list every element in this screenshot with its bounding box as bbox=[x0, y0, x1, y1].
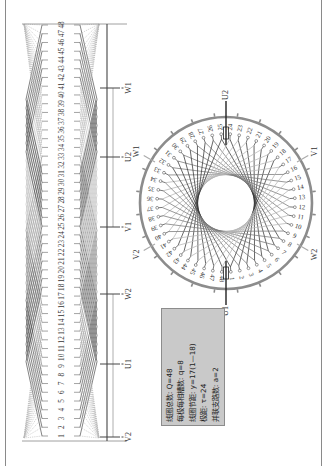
circle-slot-number: 37 bbox=[146, 206, 154, 213]
circle-slot-number: 6 bbox=[273, 256, 281, 264]
slot-terminal-dot bbox=[159, 180, 162, 183]
rotor-hole bbox=[208, 185, 244, 221]
slot-terminal-dot bbox=[173, 156, 176, 159]
circle-slot-number: 13 bbox=[298, 193, 306, 200]
slot-terminal-dot bbox=[194, 264, 197, 267]
circle-slot-number: 2 bbox=[238, 275, 246, 280]
circle-slot-number: 28 bbox=[186, 130, 196, 140]
ring-tick bbox=[259, 119, 260, 122]
circle-slot-number: 29 bbox=[178, 135, 188, 145]
slot-terminal-dot bbox=[287, 232, 290, 235]
ring-tick bbox=[306, 236, 309, 237]
slot-terminal-dot bbox=[194, 140, 197, 143]
circle-slot-number: 45 bbox=[189, 267, 198, 277]
slot-terminal-dot bbox=[156, 206, 159, 209]
slot-terminal-dot bbox=[179, 150, 182, 153]
circle-slot-number: 1 bbox=[229, 277, 236, 281]
circle-slot-number: 38 bbox=[147, 215, 156, 223]
slot-terminal-dot bbox=[167, 240, 170, 243]
ring-tick bbox=[154, 256, 157, 258]
circle-slot-number: 17 bbox=[284, 155, 294, 165]
parallel-branches-text: 并联支路数: a=2 bbox=[210, 312, 221, 422]
circle-slot-number: 43 bbox=[172, 256, 182, 266]
ring-tick bbox=[171, 272, 173, 275]
slot-terminal-dot bbox=[255, 263, 258, 266]
slot-terminal-dot bbox=[282, 240, 285, 243]
slot-terminal-dot bbox=[220, 133, 223, 136]
circle-slot-number: 27 bbox=[196, 127, 205, 136]
circle-slot-number: 10 bbox=[294, 222, 303, 231]
circle-slot-number: 3 bbox=[248, 272, 256, 278]
winding-parameters-box: 线圈总数: Q=48 每极每相槽数: q=8 线圈节距: y=17(1—18) … bbox=[161, 308, 225, 426]
slot-terminal-dot bbox=[163, 171, 166, 174]
slot-terminal-dot bbox=[238, 269, 241, 272]
slot-terminal-dot bbox=[286, 171, 289, 174]
circle-slot-number: 30 bbox=[170, 141, 180, 151]
circle-terminal-label-u2: U2 bbox=[221, 90, 230, 100]
ring-tick bbox=[154, 148, 157, 150]
ring-tick bbox=[295, 148, 298, 150]
slot-terminal-dot bbox=[179, 254, 182, 257]
slot-terminal-dot bbox=[203, 267, 206, 270]
circle-slot-number: 12 bbox=[298, 203, 305, 210]
circle-slot-number: 15 bbox=[293, 173, 302, 182]
slot-terminal-dot bbox=[263, 144, 266, 147]
pole-pitch-text: 极距: τ=24 bbox=[198, 312, 209, 422]
coil-pitch-text: 线圈节距: y=17(1—18) bbox=[187, 312, 198, 422]
slot-terminal-dot bbox=[270, 150, 273, 153]
slot-terminal-dot bbox=[290, 223, 293, 226]
ring-tick bbox=[142, 168, 145, 169]
circle-slot-number: 35 bbox=[147, 185, 155, 193]
ring-tick bbox=[295, 256, 298, 258]
circle-slot-number: 25 bbox=[216, 123, 223, 131]
ring-tick bbox=[191, 283, 192, 286]
slot-terminal-dot bbox=[255, 140, 258, 143]
slot-terminal-dot bbox=[246, 136, 249, 139]
circle-slot-number: 44 bbox=[180, 262, 190, 272]
circle-slot-number: 23 bbox=[235, 124, 243, 132]
circle-slot-number: 26 bbox=[206, 124, 214, 133]
slot-terminal-dot bbox=[270, 253, 273, 256]
ring-tick bbox=[306, 168, 309, 169]
slot-terminal-dot bbox=[292, 215, 295, 218]
slot-terminal-dot bbox=[290, 179, 293, 182]
circle-terminal-label-w1: W1 bbox=[132, 146, 141, 158]
slot-terminal-dot bbox=[167, 164, 170, 167]
ring-tick bbox=[279, 131, 281, 134]
circle-slot-number: 47 bbox=[208, 274, 216, 282]
circle-slot-number: 39 bbox=[150, 224, 159, 233]
slot-terminal-dot bbox=[159, 224, 162, 227]
circle-slot-number: 19 bbox=[270, 140, 280, 150]
circle-slot-number: 34 bbox=[149, 175, 158, 184]
circle-slot-number: 5 bbox=[265, 262, 273, 269]
ring-tick bbox=[171, 131, 173, 134]
circle-slot-number: 18 bbox=[277, 147, 287, 157]
slot-terminal-dot bbox=[292, 188, 295, 191]
slot-terminal-dot bbox=[220, 270, 223, 273]
slot-terminal-dot bbox=[157, 215, 160, 218]
circle-slot-number: 16 bbox=[289, 163, 299, 173]
circle-slot-number: 22 bbox=[245, 126, 254, 134]
circle-slot-number: 11 bbox=[297, 212, 305, 220]
slot-terminal-dot bbox=[187, 259, 190, 262]
circle-slot-number: 36 bbox=[146, 196, 154, 203]
slot-terminal-dot bbox=[229, 270, 232, 273]
circle-slot-number: 42 bbox=[165, 249, 175, 259]
circle-slot-number: 14 bbox=[296, 183, 305, 191]
ring-tick bbox=[259, 283, 260, 286]
slot-terminal-dot bbox=[202, 136, 205, 139]
ring-tick bbox=[191, 119, 192, 122]
circle-slot-number: 32 bbox=[157, 157, 166, 166]
circle-slot-number: 4 bbox=[257, 268, 265, 275]
slot-terminal-dot bbox=[157, 188, 160, 191]
slot-terminal-dot bbox=[173, 247, 176, 250]
slot-terminal-dot bbox=[276, 156, 279, 159]
slot-terminal-dot bbox=[238, 134, 241, 137]
slot-terminal-dot bbox=[211, 134, 214, 137]
slot-terminal-dot bbox=[247, 267, 250, 270]
slot-terminal-dot bbox=[163, 232, 166, 235]
circle-slot-number: 46 bbox=[198, 271, 207, 280]
circle-slot-number: 40 bbox=[153, 233, 163, 243]
slot-terminal-dot bbox=[156, 197, 159, 200]
slot-terminal-dot bbox=[229, 133, 232, 136]
